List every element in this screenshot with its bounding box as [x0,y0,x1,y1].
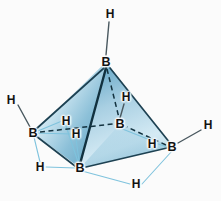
terminal-bond-left-H [18,105,30,127]
bridge-bond-right-botH [142,151,172,184]
terminal-bond-right-H [178,130,201,143]
terminal-bond-apex-H [106,22,109,55]
bridge-bond-front-botH [82,171,130,184]
molecule-diagram-svg [0,0,221,201]
bridge-bond-front-leftH [46,167,76,168]
molecule-figure: B B B B B H H H H H H H H H [0,0,221,201]
